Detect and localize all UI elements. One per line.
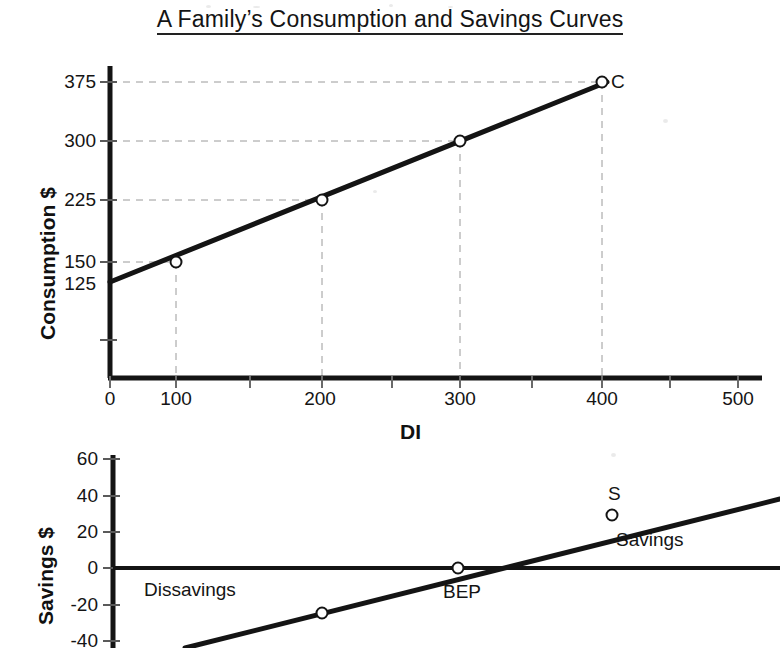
page-title-text: A Family’s Consumption and Savings Curve… (157, 6, 624, 35)
data-point-bep-300-0 (453, 563, 464, 574)
data-point-200-neg22 (317, 608, 328, 619)
consumption-chart: Consumption $ 375 300 225 150 125 0 100 … (0, 40, 780, 440)
consumption-curve (110, 82, 607, 282)
data-point-400-375 (597, 77, 608, 88)
savings-plot-svg (0, 445, 780, 648)
page-title: A Family’s Consumption and Savings Curve… (0, 6, 780, 33)
savings-curve (185, 499, 780, 648)
guide-lines-horizontal (110, 82, 602, 262)
data-point-200-225 (317, 195, 328, 206)
data-point-300-300 (455, 136, 466, 147)
savings-chart: Savings $ 60 40 20 0 -20 -40 Dissavings … (0, 445, 780, 648)
data-point-100-150 (171, 257, 182, 268)
consumption-plot-svg (0, 40, 780, 440)
data-point-400-29 (607, 510, 618, 521)
